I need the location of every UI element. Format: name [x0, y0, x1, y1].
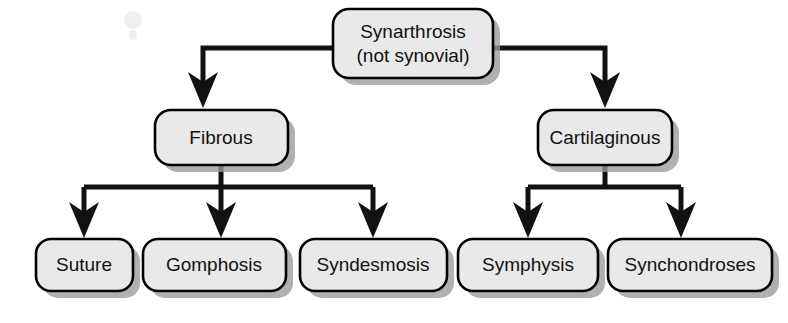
edge-root-to-cartilaginous	[493, 48, 620, 108]
node-label-synchondroses: Synchondroses	[625, 254, 756, 275]
edge-root-to-fibrous	[188, 48, 333, 108]
node-label-syndesmosis: Syndesmosis	[317, 254, 430, 275]
node-label-synarthrosis-line2: (not synovial)	[357, 45, 470, 66]
node-fibrous[interactable]: Fibrous	[155, 110, 295, 172]
node-cartilaginous[interactable]: Cartilaginous	[538, 110, 679, 172]
synarthrosis-classification-diagram: Synarthrosis (not synovial) Fibrous Cart…	[0, 0, 788, 323]
node-label-symphysis: Symphysis	[482, 254, 574, 275]
node-synarthrosis[interactable]: Synarthrosis (not synovial)	[333, 9, 500, 85]
edge-fibrous-to-gomphosis	[206, 187, 236, 238]
scan-artifact	[124, 11, 142, 40]
node-synchondroses[interactable]: Synchondroses	[608, 239, 779, 298]
node-label-suture: Suture	[56, 254, 112, 275]
node-symphysis[interactable]: Symphysis	[458, 239, 605, 298]
edge-cartilaginous-to-synchondroses	[666, 187, 696, 238]
node-gomphosis[interactable]: Gomphosis	[143, 239, 293, 298]
edge-fibrous-to-syndesmosis	[358, 187, 388, 238]
node-label-fibrous: Fibrous	[189, 127, 252, 148]
node-suture[interactable]: Suture	[36, 239, 140, 298]
node-label-gomphosis: Gomphosis	[166, 254, 262, 275]
edge-cartilaginous-to-symphysis	[513, 187, 543, 238]
diagram-canvas: Synarthrosis (not synovial) Fibrous Cart…	[0, 0, 788, 323]
node-syndesmosis[interactable]: Syndesmosis	[300, 239, 454, 298]
edge-fibrous-to-suture	[69, 187, 99, 238]
node-label-cartilaginous: Cartilaginous	[550, 127, 661, 148]
node-label-synarthrosis-line1: Synarthrosis	[360, 21, 466, 42]
